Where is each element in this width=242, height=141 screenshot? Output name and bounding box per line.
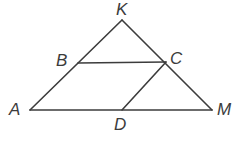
vertex-label-a: A xyxy=(9,101,20,118)
vertex-label-m: M xyxy=(217,101,231,118)
geometry-figure: K B C A D M xyxy=(0,0,242,141)
vertex-label-k: K xyxy=(116,1,127,18)
vertex-label-c: C xyxy=(170,50,182,67)
vertex-label-b: B xyxy=(56,52,67,69)
vertex-label-d: D xyxy=(114,116,126,133)
side-KM xyxy=(122,20,212,110)
side-AK xyxy=(30,20,122,110)
segment-DC xyxy=(122,62,166,110)
segment-BC xyxy=(78,62,166,63)
